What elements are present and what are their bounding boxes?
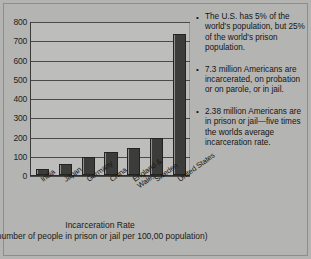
bullet-list: •The U.S. has 5% of the world's populati… <box>196 12 308 159</box>
bullet-marker-icon: • <box>196 107 199 117</box>
y-axis-tick-label: 0 <box>22 172 27 181</box>
y-axis-tick-label: 400 <box>13 95 27 104</box>
bullet-item: •2.38 million Americans are in prison or… <box>196 107 308 149</box>
y-axis-tick-label: 500 <box>13 76 27 85</box>
bullet-item: •7.3 million Americans are incarcerated,… <box>196 65 308 96</box>
bullet-text: The U.S. has 5% of the world's populatio… <box>205 12 308 54</box>
bullet-item: •The U.S. has 5% of the world's populati… <box>196 12 308 54</box>
incarceration-rate-bar-chart: 0100200300400500600700800 IndiaJapanGerm… <box>2 6 198 256</box>
bullet-marker-icon: • <box>196 65 199 75</box>
bullet-marker-icon: • <box>196 13 199 23</box>
plot-wrapper: 0100200300400500600700800 IndiaJapanGerm… <box>30 22 190 176</box>
y-axis-tick-label: 300 <box>13 114 27 123</box>
chart-caption: Incarceration Rate (number of people in … <box>2 220 198 242</box>
slide-canvas: 0100200300400500600700800 IndiaJapanGerm… <box>0 0 311 259</box>
y-axis-tick-label: 700 <box>13 37 27 46</box>
chart-title: Incarceration Rate <box>2 220 198 231</box>
y-axis-tick-label: 800 <box>13 18 27 27</box>
bar-united-states <box>173 34 186 175</box>
bullet-text: 2.38 million Americans are in prison or … <box>205 107 308 149</box>
y-axis-tick-label: 200 <box>13 133 27 142</box>
chart-subtitle: (number of people in prison or jail per … <box>0 231 198 242</box>
bullet-text: 7.3 million Americans are incarcerated, … <box>205 65 308 96</box>
y-axis-tick-label: 100 <box>13 153 27 162</box>
y-axis-tick-label: 600 <box>13 56 27 65</box>
